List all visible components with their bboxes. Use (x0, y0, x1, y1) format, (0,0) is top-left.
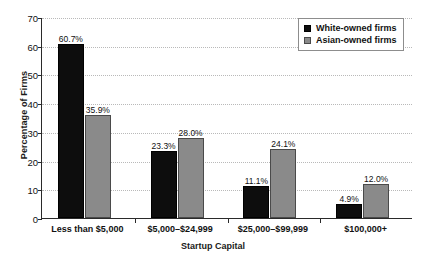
y-tick-label: 0 (33, 214, 38, 225)
bar: 11.1% (243, 186, 269, 218)
bar: 23.3% (151, 151, 177, 218)
legend-item: Asian-owned firms (304, 34, 397, 46)
y-tick-label: 10 (27, 185, 38, 196)
y-axis-title: Percentage of Firms (19, 35, 29, 195)
y-tick-label: 40 (27, 99, 38, 110)
bar: 12.0% (363, 184, 389, 218)
bar-value-label: 11.1% (245, 176, 268, 186)
bar-chart-figure: Percentage of Firms 010203040506070 60.7… (0, 0, 426, 267)
bar-value-label: 12.0% (364, 174, 388, 184)
y-tick-label: 20 (27, 156, 38, 167)
x-tick-mark (320, 218, 321, 223)
x-tick-mark (228, 218, 229, 223)
y-tick-label: 70 (27, 13, 38, 24)
x-tick-label: $5,000–$24,999 (148, 224, 213, 234)
x-tick-label: $100,000+ (344, 224, 387, 234)
black-square-icon (304, 25, 311, 32)
bar: 60.7% (58, 44, 84, 218)
bar-value-label: 23.3% (152, 141, 176, 151)
x-tick-label: Less than $5,000 (51, 224, 123, 234)
bar: 28.0% (178, 138, 204, 218)
x-tick-label: $25,000–$99,999 (238, 224, 308, 234)
y-tick-mark (38, 219, 42, 220)
bar-value-label: 60.7% (59, 34, 83, 44)
x-axis-title: Startup Capital (0, 241, 426, 251)
bar-value-label: 24.1% (271, 139, 295, 149)
bar: 4.9% (336, 204, 362, 218)
y-tick-label: 30 (27, 127, 38, 138)
legend-item-label: Asian-owned firms (316, 35, 397, 45)
bar-value-label: 35.9% (86, 105, 110, 115)
x-tick-mark (135, 218, 136, 223)
gray-square-icon (304, 37, 311, 44)
y-tick-label: 60 (27, 41, 38, 52)
bar: 24.1% (270, 149, 296, 218)
chart-legend: White-owned firmsAsian-owned firms (298, 18, 404, 51)
y-tick-label: 50 (27, 70, 38, 81)
legend-item-label: White-owned firms (316, 23, 397, 33)
legend-item: White-owned firms (304, 22, 397, 34)
bar: 35.9% (85, 115, 111, 218)
bar-value-label: 28.0% (179, 128, 203, 138)
bar-value-label: 4.9% (339, 194, 358, 204)
